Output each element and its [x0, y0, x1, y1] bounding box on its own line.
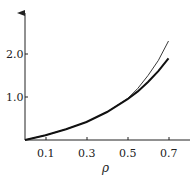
x-tick-label: 0.3 — [78, 147, 96, 160]
chart: 1.0 2.0 0.1 0.3 0.5 0.7 ρ — [0, 0, 195, 177]
y-tick-label: 1.0 — [6, 91, 24, 104]
x-tick-label: 0.5 — [119, 147, 137, 160]
y-tick-label: 2.0 — [6, 48, 24, 61]
x-tick-label: 0.7 — [160, 147, 178, 160]
x-tick-label: 0.1 — [37, 147, 55, 160]
x-axis-label: ρ — [101, 161, 109, 175]
thin-curve — [25, 41, 169, 140]
thick-curve — [25, 58, 169, 140]
